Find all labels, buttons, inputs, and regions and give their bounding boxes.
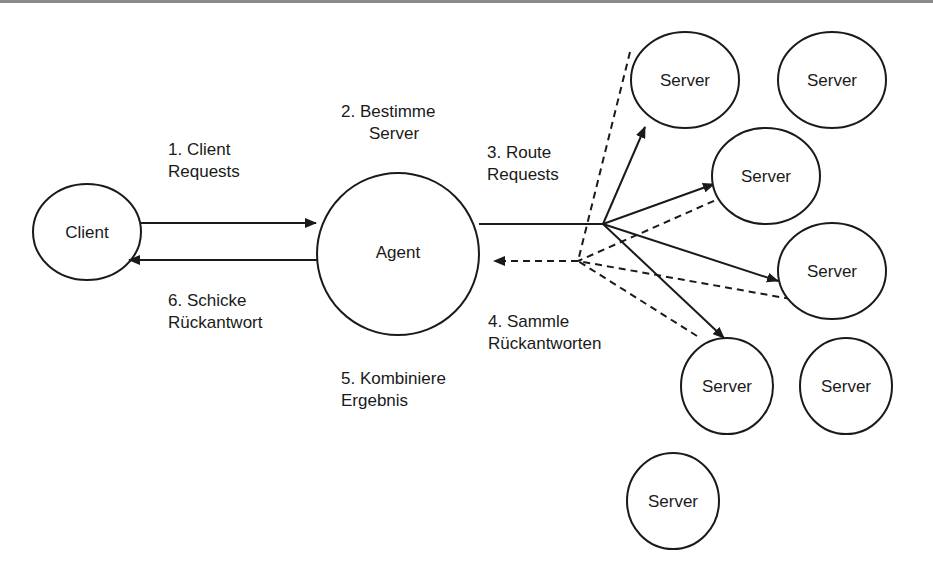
svg-text:Server: Server [807, 71, 857, 90]
step-3-label: 3. Route Requests [487, 142, 559, 186]
route-arrow-server-4 [603, 224, 778, 281]
svg-text:Server: Server [821, 377, 871, 396]
architecture-diagram: Client Agent Server Server Server Server [0, 0, 933, 576]
client-node: Client [33, 184, 141, 280]
svg-text:Server: Server [660, 71, 710, 90]
svg-text:Server: Server [807, 262, 857, 281]
svg-text:Server: Server [741, 167, 791, 186]
step-1-label: 1. Client Requests [168, 139, 240, 183]
collect-line-server-4 [578, 261, 791, 299]
svg-text:Server: Server [648, 492, 698, 511]
step-5-label: 5. Kombiniere Ergebnis [341, 368, 446, 412]
step-2-label: 2. Bestimme Server [341, 101, 435, 145]
server-node-7: Server [627, 453, 719, 549]
client-label: Client [65, 223, 109, 242]
svg-text:Server: Server [702, 377, 752, 396]
server-node-5: Server [681, 338, 773, 434]
route-arrow-server-3 [603, 184, 714, 224]
server-node-6: Server [800, 338, 892, 434]
step-6-label: 6. Schicke Rückantwort [168, 290, 262, 334]
server-node-2: Server [778, 32, 886, 128]
step-4-label: 4. Sammle Rückantworten [488, 311, 601, 355]
route-arrow-server-1 [603, 127, 645, 224]
agent-node: Agent [317, 173, 479, 335]
server-node-1: Server [631, 32, 739, 128]
server-node-3: Server [712, 128, 820, 224]
agent-label: Agent [376, 243, 421, 262]
server-node-4: Server [778, 223, 886, 319]
